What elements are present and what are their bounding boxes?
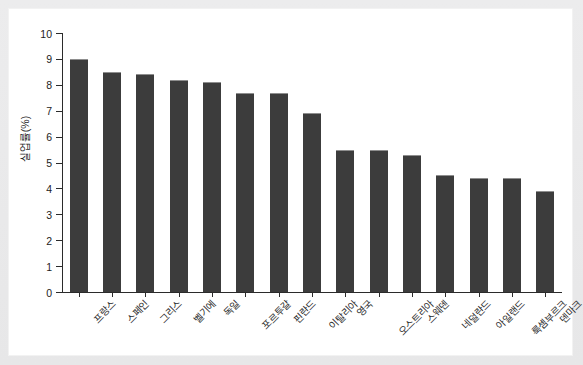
x-axis-tick	[279, 292, 280, 297]
x-axis-tick	[112, 292, 113, 297]
x-axis-tick	[345, 292, 346, 297]
x-axis-tick-label: 핀란드	[292, 299, 318, 325]
y-axis-tick: 7	[56, 111, 62, 112]
bar	[236, 93, 254, 292]
x-axis-tick	[212, 292, 213, 297]
y-axis-tick-label: 8	[46, 80, 52, 91]
y-axis-label: 실업률(%)	[20, 116, 31, 162]
y-axis-tick-label: 2	[46, 235, 52, 246]
y-axis-tick: 9	[56, 59, 62, 60]
bar	[370, 150, 388, 292]
y-axis-tick: 3	[56, 214, 62, 215]
x-axis-tick	[412, 292, 413, 297]
x-axis-tick	[379, 292, 380, 297]
bar	[203, 82, 221, 292]
bar	[336, 150, 354, 292]
x-axis-tick-label: 포르투갈	[261, 299, 294, 332]
bar	[536, 191, 554, 292]
y-axis-tick-label: 5	[46, 158, 52, 169]
x-axis-tick-label: 영국	[356, 299, 376, 319]
chart-canvas: 실업률(%) 012345678910 프랑스스페인그리스벨기에독일포르투갈핀란…	[9, 9, 572, 355]
y-axis-tick-label: 9	[46, 54, 52, 65]
y-axis-tick-label: 0	[46, 287, 52, 298]
y-axis-tick: 4	[56, 188, 62, 189]
y-axis-tick-label: 10	[40, 28, 52, 39]
x-axis-tick	[312, 292, 313, 297]
y-axis-line	[62, 33, 63, 292]
bar	[270, 93, 288, 292]
x-axis-tick-label: 네덜란드	[461, 299, 494, 332]
y-axis-tick: 2	[56, 240, 62, 241]
x-axis-tick-label: 벨기에	[192, 299, 218, 325]
x-axis-tick	[179, 292, 180, 297]
x-axis-tick	[79, 292, 80, 297]
bar	[503, 178, 521, 292]
x-axis-tick	[512, 292, 513, 297]
y-axis-tick: 10	[56, 33, 62, 34]
y-axis-tick-label: 3	[46, 210, 52, 221]
x-axis-tick-label: 스페인	[125, 299, 151, 325]
bar	[103, 72, 121, 292]
bar	[170, 80, 188, 292]
x-axis-tick	[145, 292, 146, 297]
bar	[403, 155, 421, 292]
y-axis-tick: 1	[56, 266, 62, 267]
x-axis-tick-label: 아일랜드	[494, 299, 527, 332]
x-axis-tick	[479, 292, 480, 297]
bar	[136, 74, 154, 292]
x-axis-tick-label: 그리스	[158, 299, 184, 325]
x-axis-tick-label: 프랑스	[92, 299, 118, 325]
x-axis-tick-label: 독일	[222, 299, 242, 319]
x-axis-tick	[545, 292, 546, 297]
x-axis-tick	[245, 292, 246, 297]
bar	[436, 175, 454, 292]
bar	[70, 59, 88, 292]
y-axis-tick-label: 4	[46, 184, 52, 195]
x-axis-tick	[445, 292, 446, 297]
x-axis-tick-label: 이탈리아	[328, 299, 361, 332]
y-axis-tick-label: 6	[46, 132, 52, 143]
plot-area: 012345678910 프랑스스페인그리스벨기에독일포르투갈핀란드이탈리아영국…	[62, 33, 562, 292]
y-axis-tick: 8	[56, 85, 62, 86]
y-axis-tick-label: 1	[46, 261, 52, 272]
bar	[303, 113, 321, 292]
bar	[470, 178, 488, 292]
chart-figure: 실업률(%) 012345678910 프랑스스페인그리스벨기에독일포르투갈핀란…	[0, 0, 583, 365]
y-axis-tick-label: 7	[46, 106, 52, 117]
y-axis-tick: 5	[56, 163, 62, 164]
y-axis-tick: 6	[56, 137, 62, 138]
y-axis-tick: 0	[56, 292, 62, 293]
